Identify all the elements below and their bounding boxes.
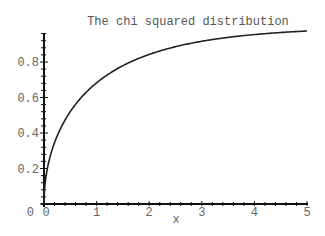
x-tick-label: 0 [42, 206, 49, 220]
chart-title: The chi squared distribution [87, 15, 289, 29]
x-tick-label: 1 [93, 206, 100, 220]
y-tick-label: 0 [27, 206, 34, 220]
x-tick-label: 3 [198, 206, 205, 220]
x-tick-label: 5 [303, 206, 310, 220]
y-tick-label: 0.8 [17, 56, 39, 70]
x-tick-label: 2 [146, 206, 153, 220]
y-tick-label: 0.2 [17, 163, 39, 177]
y-tick-label: 0.6 [17, 92, 39, 106]
y-tick-label: 0.4 [17, 127, 39, 141]
data-line-chi-squared [44, 31, 307, 204]
x-tick-label: 4 [251, 206, 258, 220]
x-axis-label: x [172, 213, 179, 227]
y-axis: 00.20.40.60.8 [17, 33, 48, 220]
chart: The chi squared distribution 00.20.40.60… [0, 0, 325, 236]
